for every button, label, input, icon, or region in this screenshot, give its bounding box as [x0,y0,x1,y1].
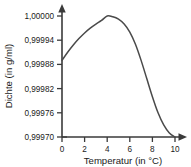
density-curve [62,16,175,137]
y-tick-label-2: 0,99988 [24,60,54,69]
y-axis-title: Dichte (in g/ml) [3,44,14,109]
y-tick-label-3: 0,99982 [24,85,54,94]
x-tick-label-4: 8 [150,145,155,154]
x-tick-label-1: 2 [82,145,87,154]
y-axis-arrowhead [58,4,65,13]
x-tick-label-2: 4 [105,145,110,154]
x-tick-label-5: 10 [170,145,180,154]
x-axis-title: Temperatur (in °C) [84,155,162,166]
x-axis-arrowhead [179,133,188,140]
density-temperature-chart: 1,00000 0,99994 0,99988 0,99982 0,99976 … [0,0,191,167]
y-tick-label-5: 0,99970 [24,133,54,142]
y-tick-label-0: 1,00000 [24,12,54,21]
chart-svg: 1,00000 0,99994 0,99988 0,99982 0,99976 … [0,0,191,167]
x-tick-label-3: 6 [128,145,133,154]
x-tick-label-0: 0 [60,145,65,154]
y-tick-label-1: 0,99994 [24,36,54,45]
y-tick-label-4: 0,99976 [24,109,54,118]
